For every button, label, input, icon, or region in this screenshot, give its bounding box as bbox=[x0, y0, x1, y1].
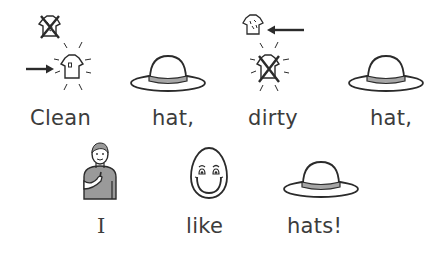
word-hat: hat, bbox=[370, 106, 412, 130]
word-hats: hats! bbox=[287, 214, 342, 238]
word-dirty: dirty bbox=[248, 106, 298, 130]
hat-icon bbox=[281, 158, 361, 200]
word-hat: hat, bbox=[152, 106, 194, 130]
word-clean: Clean bbox=[30, 106, 91, 130]
person-pointing-self-icon bbox=[80, 141, 120, 203]
word-i: I bbox=[97, 214, 106, 238]
clean-shirt-icon bbox=[22, 12, 104, 94]
smiling-face-icon bbox=[189, 145, 229, 201]
hat-icon bbox=[128, 52, 208, 94]
word-like: like bbox=[186, 214, 223, 238]
hat-icon bbox=[346, 52, 426, 94]
dirty-shirt-icon bbox=[238, 12, 312, 94]
